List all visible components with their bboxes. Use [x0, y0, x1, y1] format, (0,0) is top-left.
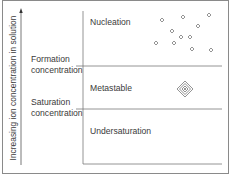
saturation-label-line1: Saturation [31, 97, 83, 108]
small-diamond-icon [154, 13, 213, 52]
region-undersaturation: Undersaturation [90, 126, 151, 137]
concentric-diamond-icon [177, 81, 193, 97]
saturation-label: Saturation concentration [31, 97, 83, 119]
formation-label-line2: concentration [31, 65, 83, 76]
saturation-label-line2: concentration [31, 108, 83, 119]
formation-label-line1: Formation [31, 54, 83, 65]
region-nucleation: Nucleation [90, 17, 131, 28]
region-metastable: Metastable [90, 83, 132, 94]
y-axis-arrow-icon [19, 8, 22, 165]
formation-label: Formation concentration [31, 54, 83, 76]
